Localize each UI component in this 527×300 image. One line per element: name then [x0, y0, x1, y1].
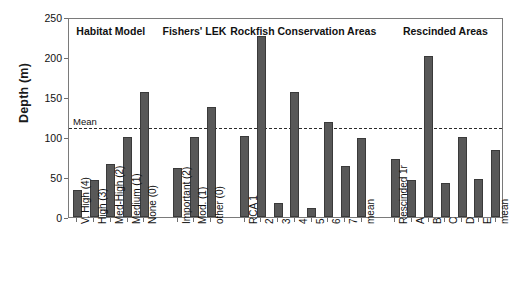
x-tick-label: 6: [331, 218, 342, 224]
x-tick-mark: [294, 218, 295, 222]
y-tick-label: 150: [0, 92, 62, 104]
x-tick-label: 3: [281, 218, 292, 224]
x-tick-label: 4: [298, 218, 309, 224]
bar: [274, 203, 283, 217]
x-tick-mark: [361, 218, 362, 222]
bar: [290, 92, 299, 217]
x-tick-label: mean: [499, 199, 510, 224]
bar: [341, 166, 350, 217]
bar: [307, 208, 316, 217]
x-tick-label: V. High (4): [80, 177, 91, 224]
x-tick-label: Medium (1): [131, 173, 142, 224]
bar: [458, 137, 467, 217]
x-tick-label: RCA 1: [248, 195, 259, 224]
x-tick-mark: [244, 218, 245, 222]
x-tick-mark: [311, 218, 312, 222]
x-tick-label: 7: [348, 218, 359, 224]
x-tick-label: D: [465, 217, 476, 224]
x-tick-mark: [143, 218, 144, 222]
group-header: Rescinded Areas: [403, 25, 488, 37]
x-tick-label: B: [432, 217, 443, 224]
x-tick-label: mean: [365, 199, 376, 224]
bar: [257, 36, 266, 217]
bar: [324, 122, 333, 217]
x-tick-mark: [461, 218, 462, 222]
x-tick-mark: [193, 218, 194, 222]
mean-line-label: Mean: [73, 116, 97, 127]
x-tick-mark: [260, 218, 261, 222]
group-header: Fishers' LEK: [162, 25, 226, 37]
x-tick-mark: [210, 218, 211, 222]
bar-chart-figure: Depth (m) 050100150200250 Mean Habitat M…: [0, 0, 527, 300]
x-tick-label: 5: [315, 218, 326, 224]
bar: [424, 56, 433, 217]
x-tick-label: 2: [264, 218, 275, 224]
x-tick-label: Mod. (1): [197, 187, 208, 224]
bar: [441, 183, 450, 217]
x-tick-mark: [110, 218, 111, 222]
group-header: Habitat Model: [76, 25, 145, 37]
y-tick-label: 0: [0, 212, 62, 224]
bar: [474, 179, 483, 217]
x-tick-label: C: [448, 217, 459, 224]
y-tick-label: 100: [0, 132, 62, 144]
x-tick-mark: [127, 218, 128, 222]
x-tick-label: E: [482, 217, 493, 224]
x-tick-label: A: [415, 217, 426, 224]
x-tick-mark: [478, 218, 479, 222]
x-tick-mark: [76, 218, 77, 222]
x-tick-mark: [394, 218, 395, 222]
x-tick-mark: [277, 218, 278, 222]
x-tick-label: other (0): [214, 186, 225, 224]
x-tick-mark: [344, 218, 345, 222]
y-tick-label: 50: [0, 172, 62, 184]
x-tick-label: Important (2): [181, 167, 192, 224]
x-tick-mark: [411, 218, 412, 222]
x-tick-mark: [177, 218, 178, 222]
x-tick-label: None (0): [147, 185, 158, 224]
x-tick-label: Med-High (2): [114, 166, 125, 224]
y-tick-label: 250: [0, 12, 62, 24]
mean-reference-line: [69, 128, 502, 129]
y-tick-label: 200: [0, 52, 62, 64]
x-tick-label: Rescinded 1r: [398, 165, 409, 224]
x-tick-mark: [327, 218, 328, 222]
x-tick-label: High (3): [97, 188, 108, 224]
y-tick-mark: [64, 218, 68, 219]
x-tick-mark: [495, 218, 496, 222]
x-tick-mark: [93, 218, 94, 222]
x-tick-mark: [428, 218, 429, 222]
group-header: Rockfish Conservation Areas: [230, 25, 376, 37]
x-tick-mark: [444, 218, 445, 222]
